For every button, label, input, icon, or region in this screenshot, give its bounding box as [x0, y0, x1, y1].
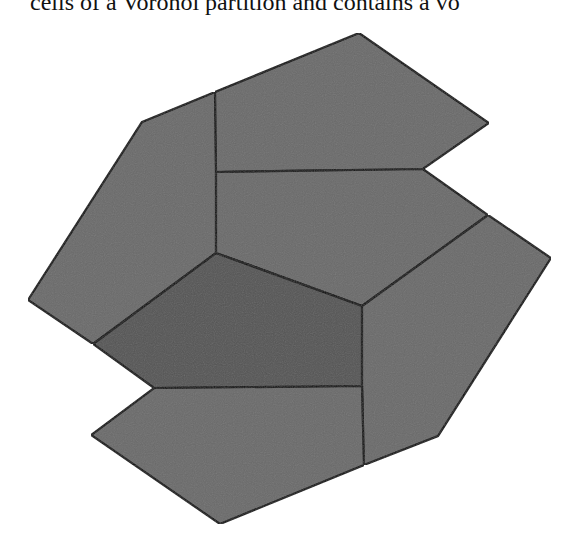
voronoi-cell-top-center: [215, 33, 489, 172]
cell-group: [28, 33, 551, 524]
diagram-canvas: [0, 0, 571, 543]
voronoi-diagram: [0, 0, 571, 543]
voronoi-cell-bottom: [91, 386, 364, 524]
